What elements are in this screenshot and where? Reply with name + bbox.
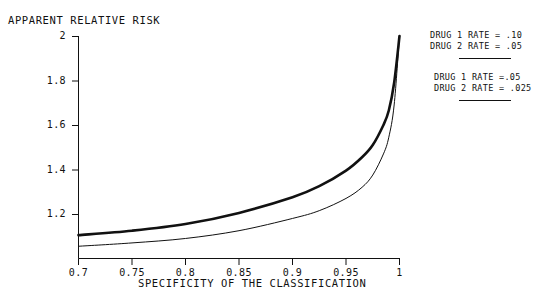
- x-axis-title: SPECIFICITY OF THE CLASSIFICATION: [138, 277, 366, 289]
- ytick-label-1-4: 1.4: [32, 164, 66, 175]
- ytick-label-1-2: 1.2: [32, 208, 66, 219]
- legend-entry-1-line-2: DRUG 2 RATE = .05: [430, 41, 522, 52]
- legend-entry-2-line-2: DRUG 2 RATE = .025: [434, 83, 532, 94]
- legend-entry-2: DRUG 1 RATE =.05 DRUG 2 RATE = .025: [434, 72, 532, 94]
- ytick-label-2: 2: [32, 30, 66, 41]
- chart-container: APPARENT RELATIVE RISK 2 1.8 1.6 1: [0, 0, 545, 299]
- ytick-label-1-8: 1.8: [32, 75, 66, 86]
- y-axis-ticks: [72, 37, 79, 215]
- xtick-label-0-7: 0.7: [59, 267, 99, 278]
- legend-sample-line-2: [459, 100, 511, 101]
- series-line-drug-rate-05-025: [79, 36, 400, 246]
- x-axis-ticks: [79, 259, 400, 266]
- legend-entry-1-line-1: DRUG 1 RATE = .10: [430, 30, 522, 41]
- legend-sample-line-1: [459, 58, 511, 59]
- legend-entry-2-line-1: DRUG 1 RATE =.05: [434, 72, 532, 83]
- series-line-drug-rate-10-05: [79, 36, 400, 235]
- xtick-label-1: 1: [380, 267, 420, 278]
- ytick-label-1-6: 1.6: [32, 119, 66, 130]
- legend-entry-1: DRUG 1 RATE = .10 DRUG 2 RATE = .05: [430, 30, 522, 52]
